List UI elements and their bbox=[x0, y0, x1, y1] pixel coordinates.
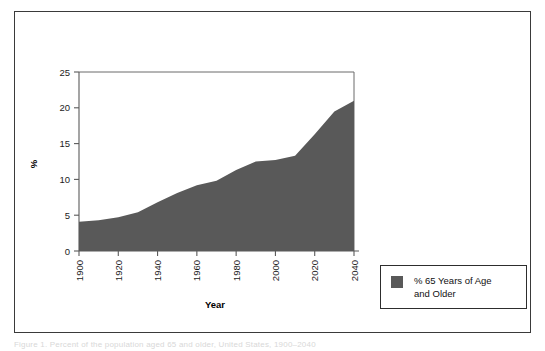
y-tick-label: 5 bbox=[65, 210, 70, 221]
x-tick-label: 1900 bbox=[74, 260, 85, 281]
x-tick-label: 2000 bbox=[270, 260, 281, 281]
series-area-65-plus bbox=[79, 101, 354, 251]
x-tick-label: 1960 bbox=[191, 260, 202, 281]
x-tick-label: 1940 bbox=[152, 260, 163, 281]
y-tick-label: 10 bbox=[59, 174, 70, 185]
y-tick-label: 20 bbox=[59, 102, 70, 113]
screenshot-root: 0510152025 19001920194019601980200020202… bbox=[0, 0, 545, 351]
legend-label-65-plus: % 65 Years of Age and Older bbox=[414, 275, 492, 300]
y-axis-title: % bbox=[28, 159, 39, 168]
legend-swatch-65-plus bbox=[391, 276, 403, 288]
figure-frame: 0510152025 19001920194019601980200020202… bbox=[14, 11, 531, 333]
x-axis-title: Year bbox=[205, 299, 225, 310]
x-tick-label: 1980 bbox=[231, 260, 242, 281]
x-tick-label: 2040 bbox=[349, 260, 360, 281]
y-tick-label: 15 bbox=[59, 138, 70, 149]
x-tick-label: 2020 bbox=[309, 260, 320, 281]
x-axis: 19001920194019601980200020202040 bbox=[74, 251, 360, 281]
y-tick-label: 25 bbox=[59, 67, 70, 78]
chart-legend: % 65 Years of Age and Older bbox=[380, 265, 527, 309]
y-tick-label: 0 bbox=[65, 246, 70, 257]
y-axis: 0510152025 bbox=[59, 67, 79, 257]
figure-caption-remnant: Figure 1. Percent of the population aged… bbox=[14, 340, 531, 351]
x-tick-label: 1920 bbox=[113, 260, 124, 281]
